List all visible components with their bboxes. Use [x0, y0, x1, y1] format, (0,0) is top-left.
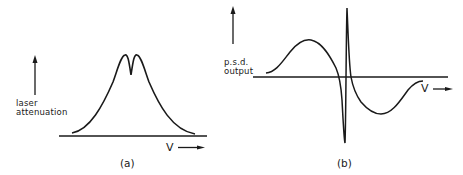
panel-a-y-arrow-head	[33, 55, 38, 63]
panel-b-graph	[231, 6, 454, 143]
panel-b-x-label: V	[421, 82, 429, 95]
panel-b-curve	[266, 8, 423, 143]
panel-a-v-arrow-head	[197, 146, 205, 150]
panel-b-caption: (b)	[337, 157, 352, 169]
panel-a-caption: (a)	[120, 157, 135, 169]
panel-a-curve	[72, 55, 195, 134]
panel-a-graph	[33, 55, 208, 150]
panel-b-y-label-line2: output	[224, 67, 253, 76]
figure-canvas	[0, 0, 463, 175]
panel-a-x-label: V	[166, 141, 174, 154]
panel-a-y-label-line2: attenuation	[16, 108, 68, 117]
panel-b-y-arrow-head	[231, 6, 236, 14]
panel-b-v-arrow-head	[445, 87, 453, 91]
